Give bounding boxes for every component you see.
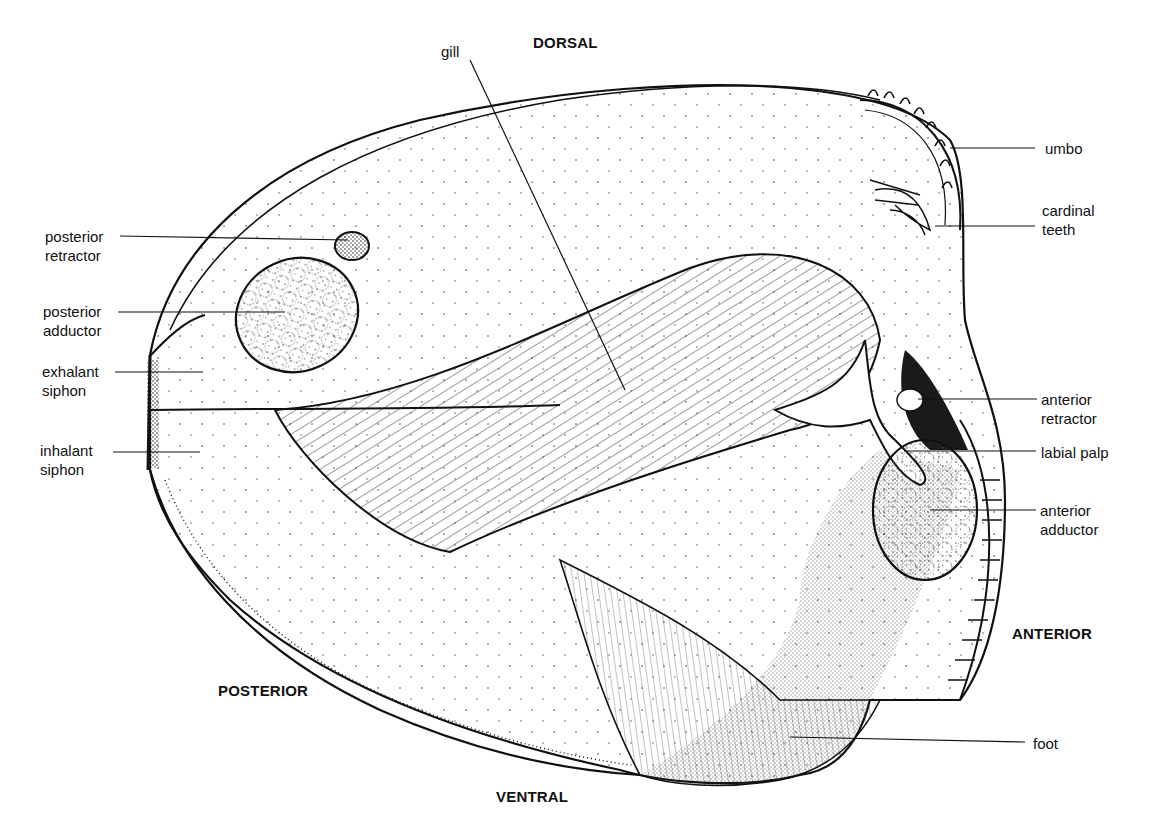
- label-anterior-retractor: anterior retractor: [1041, 390, 1097, 428]
- label-foot: foot: [1033, 734, 1058, 753]
- orientation-anterior: ANTERIOR: [1012, 625, 1092, 642]
- label-anterior-adductor: anterior adductor: [1040, 501, 1098, 539]
- clam-anatomy-diagram: [0, 0, 1150, 833]
- orientation-dorsal: DORSAL: [533, 34, 598, 51]
- orientation-posterior: POSTERIOR: [218, 682, 308, 699]
- label-labial-palp: labial palp: [1041, 443, 1109, 462]
- label-exhalant-siphon: exhalant siphon: [42, 362, 99, 400]
- label-umbo: umbo: [1045, 139, 1083, 158]
- label-inhalant-siphon: inhalant siphon: [40, 441, 93, 479]
- label-posterior-adductor: posterior adductor: [43, 302, 101, 340]
- posterior-retractor-shape: [335, 232, 369, 260]
- label-posterior-retractor: posterior retractor: [45, 227, 103, 265]
- label-cardinal-teeth: cardinal teeth: [1042, 201, 1095, 239]
- label-gill: gill: [441, 42, 459, 61]
- orientation-ventral: VENTRAL: [496, 788, 568, 805]
- anterior-retractor-shape: [897, 389, 923, 411]
